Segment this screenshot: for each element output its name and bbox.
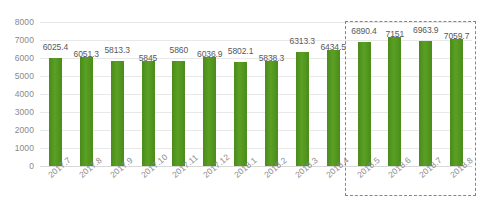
bar <box>419 41 432 166</box>
bar-value-label: 6025.4 <box>39 42 71 52</box>
bar-value-label: 6313.3 <box>286 36 318 46</box>
bar <box>49 58 62 166</box>
bar <box>203 57 216 166</box>
y-axis-tick-label: 0 <box>0 161 34 171</box>
bars-layer <box>40 22 472 166</box>
bar <box>450 39 463 166</box>
bar-value-label: 6036.9 <box>194 49 226 59</box>
y-axis-tick-label: 2000 <box>0 125 34 135</box>
bar <box>296 52 309 166</box>
bar <box>111 61 124 166</box>
bar-chart: 800070006000500040003000200010000 6025.4… <box>0 0 477 220</box>
bar-value-label: 6051.3 <box>70 49 102 59</box>
y-axis-tick-label: 4000 <box>0 89 34 99</box>
bar-value-label: 5813.3 <box>101 45 133 55</box>
bar-value-label: 5838.3 <box>255 53 287 63</box>
bar-value-label: 6890.4 <box>348 26 380 36</box>
bar-value-label: 5860 <box>163 45 195 55</box>
plot-area <box>40 22 472 166</box>
bar-value-label: 6434.5 <box>317 42 349 52</box>
bar <box>327 50 340 166</box>
y-axis-tick-label: 1000 <box>0 143 34 153</box>
bar-value-label: 7059.7 <box>441 31 473 41</box>
y-axis-tick-label: 8000 <box>0 17 34 27</box>
bar <box>80 57 93 166</box>
bar <box>358 42 371 166</box>
y-axis-tick-label: 5000 <box>0 71 34 81</box>
bar <box>142 61 155 166</box>
y-axis-tick-label: 7000 <box>0 35 34 45</box>
y-axis-tick-label: 3000 <box>0 107 34 117</box>
bar <box>388 37 401 166</box>
bar <box>172 61 185 166</box>
bar <box>265 61 278 166</box>
bar-value-label: 7151 <box>379 29 411 39</box>
bar-value-label: 5802.1 <box>225 46 257 56</box>
bar-value-label: 6963.9 <box>410 25 442 35</box>
bar <box>234 62 247 166</box>
y-axis-tick-label: 6000 <box>0 53 34 63</box>
bar-value-label: 5845 <box>132 53 164 63</box>
